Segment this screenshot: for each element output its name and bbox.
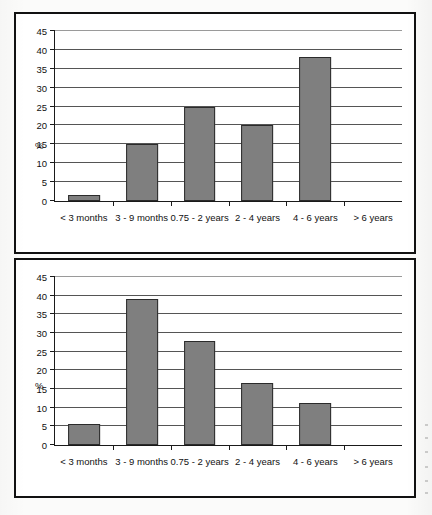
x-tick <box>171 445 172 450</box>
bar-slot <box>286 277 344 445</box>
chart-panel-top: % 051015202530354045 < 3 months3 - 9 mon… <box>14 12 416 254</box>
bar-slot <box>171 31 229 201</box>
y-tick-label: 20 <box>36 120 47 131</box>
y-tick-label: 5 <box>42 421 47 432</box>
x-axis-label: > 6 years <box>344 456 402 467</box>
y-tick-label: 0 <box>42 196 47 207</box>
x-tick <box>171 201 172 206</box>
x-axis-labels-bottom: < 3 months3 - 9 months0.75 - 2 years2 - … <box>55 456 402 467</box>
bar <box>126 144 158 201</box>
bar-chart-bottom: % 051015202530354045 < 3 months3 - 9 mon… <box>16 260 414 496</box>
x-axis-label: 4 - 6 years <box>286 212 344 223</box>
bar <box>184 107 216 201</box>
y-tick-label: 30 <box>36 328 47 339</box>
x-axis-label: 4 - 6 years <box>286 456 344 467</box>
x-axis-label: < 3 months <box>55 212 113 223</box>
bar-chart-top: % 051015202530354045 < 3 months3 - 9 mon… <box>16 14 414 252</box>
x-axis-label: 2 - 4 years <box>229 456 287 467</box>
y-tick-label: 0 <box>42 440 47 451</box>
y-tick-label: 25 <box>36 346 47 357</box>
y-tick-label: 45 <box>36 272 47 283</box>
x-tick <box>229 201 230 206</box>
x-tick <box>344 445 345 450</box>
y-tick-label: 15 <box>36 139 47 150</box>
y-tick-label: 15 <box>36 384 47 395</box>
x-tick <box>344 201 345 206</box>
plot-area-top: 051015202530354045 < 3 months3 - 9 month… <box>54 31 402 202</box>
bar <box>299 57 331 201</box>
x-tick <box>286 445 287 450</box>
bar-slot <box>286 31 344 201</box>
y-tick-label: 40 <box>36 44 47 55</box>
y-tick-label: 45 <box>36 26 47 37</box>
x-tick <box>113 445 114 450</box>
y-tick-label: 20 <box>36 365 47 376</box>
x-ticks-bottom <box>55 445 402 450</box>
bar <box>241 383 273 445</box>
x-axis-label: > 6 years <box>344 212 402 223</box>
bar-slot <box>344 277 402 445</box>
bar <box>184 341 216 445</box>
bar-slot <box>55 277 113 445</box>
bar-slot <box>344 31 402 201</box>
bar-slot <box>113 31 171 201</box>
y-tick-label: 30 <box>36 82 47 93</box>
x-axis-label: 3 - 9 months <box>113 212 171 223</box>
y-tick-label: 35 <box>36 309 47 320</box>
x-axis-label: 0.75 - 2 years <box>171 212 229 223</box>
bar <box>299 403 331 445</box>
x-tick <box>229 445 230 450</box>
bar <box>68 424 100 445</box>
y-tick-label: 35 <box>36 63 47 74</box>
bar-series-bottom <box>55 277 402 445</box>
plot-area-bottom: 051015202530354045 < 3 months3 - 9 month… <box>54 277 402 446</box>
y-tick-label: 5 <box>42 177 47 188</box>
x-tick <box>286 201 287 206</box>
chart-panel-bottom: % 051015202530354045 < 3 months3 - 9 mon… <box>14 258 416 498</box>
x-ticks-top <box>55 201 402 206</box>
y-tick-label: 25 <box>36 101 47 112</box>
bar <box>126 299 158 445</box>
y-tick-label: 10 <box>36 158 47 169</box>
x-axis-labels-top: < 3 months3 - 9 months0.75 - 2 years2 - … <box>55 212 402 223</box>
bar-slot <box>228 277 286 445</box>
bar-slot <box>113 277 171 445</box>
x-axis-label: < 3 months <box>55 456 113 467</box>
bar-slot <box>55 31 113 201</box>
bar-slot <box>171 277 229 445</box>
x-axis-label: 0.75 - 2 years <box>171 456 229 467</box>
x-tick <box>113 201 114 206</box>
bar-slot <box>228 31 286 201</box>
x-axis-label: 2 - 4 years <box>229 212 287 223</box>
bar <box>241 125 273 201</box>
scan-edge-artifacts <box>420 420 430 498</box>
bar-series-top <box>55 31 402 201</box>
x-axis-label: 3 - 9 months <box>113 456 171 467</box>
y-tick-label: 10 <box>36 402 47 413</box>
figure-page: % 051015202530354045 < 3 months3 - 9 mon… <box>0 0 432 515</box>
y-tick-label: 40 <box>36 290 47 301</box>
